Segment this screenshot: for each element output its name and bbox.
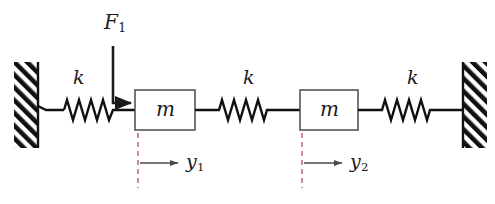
y2-symbol: y (350, 150, 361, 172)
displacement-y1 (138, 133, 178, 188)
displacement-y2 (302, 133, 342, 188)
right-wall (463, 62, 487, 148)
y2-subscript: 2 (361, 160, 369, 174)
left-wall (14, 62, 38, 148)
spring-middle (195, 100, 300, 120)
y1-symbol: y (186, 150, 197, 172)
mass-1-label: m (156, 99, 175, 119)
y1-subscript: 1 (197, 160, 205, 174)
force-symbol: F (104, 10, 118, 34)
force-arrow-f1 (113, 46, 131, 103)
force-f1-label: F1 (104, 12, 126, 35)
mechanical-system-diagram: k k k m m F1 y1 y2 (0, 0, 495, 204)
diagram-canvas (0, 0, 495, 204)
displacement-y2-label: y2 (350, 152, 369, 174)
spring-middle-label: k (243, 68, 255, 87)
force-subscript: 1 (118, 20, 126, 35)
spring-right (358, 100, 463, 120)
spring-right-label: k (407, 68, 419, 87)
mass-2-label: m (320, 99, 339, 119)
spring-left-label: k (73, 68, 85, 87)
displacement-y1-label: y1 (186, 152, 205, 174)
